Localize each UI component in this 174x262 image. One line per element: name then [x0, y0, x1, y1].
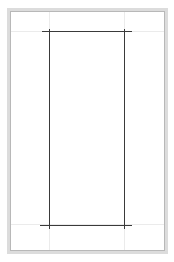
rect-bottom-edge — [40, 225, 132, 226]
rect-top-edge — [42, 31, 132, 32]
rect-right-edge — [124, 29, 125, 229]
page-frame-inner — [10, 11, 165, 251]
rect-left-edge — [49, 29, 50, 229]
